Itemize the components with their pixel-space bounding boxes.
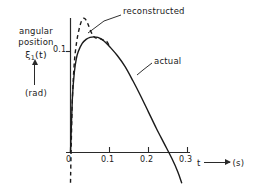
x-tick-label-0.2: 0.2 xyxy=(140,155,153,164)
leader-line-reconstructed xyxy=(88,15,121,33)
x-axis-direction-arrow-icon xyxy=(204,162,230,163)
x-axis-caption: t (s) xyxy=(197,158,244,168)
x-axis-unit-label: (s) xyxy=(233,158,245,168)
figure-canvas: angular position ξ1(t) (rad) 0 0.1 0.2 0… xyxy=(0,0,262,188)
series-label-actual: actual xyxy=(154,56,181,66)
x-tick-label-0.3: 0.3 xyxy=(179,155,192,164)
x-tick-label-0.1: 0.1 xyxy=(101,155,114,164)
x-tick-label-0: 0 xyxy=(66,155,71,164)
x-axis-variable: t xyxy=(197,158,201,168)
series-label-reconstructed: reconstructed xyxy=(123,6,185,16)
leader-line-actual xyxy=(137,63,152,75)
y-tick-label-0.1: 0.1 xyxy=(53,45,66,54)
